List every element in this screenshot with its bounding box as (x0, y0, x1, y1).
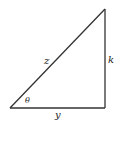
triangle-figure (0, 0, 119, 150)
label-angle-theta: θ (25, 97, 30, 105)
hypotenuse-z (10, 9, 105, 108)
right-triangle-diagram: z k y θ (0, 0, 119, 150)
label-horizontal-side: y (55, 110, 61, 120)
label-hypotenuse: z (44, 56, 49, 66)
label-vertical-side: k (108, 55, 114, 65)
